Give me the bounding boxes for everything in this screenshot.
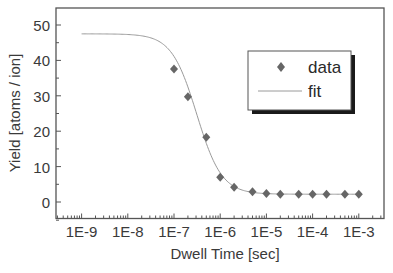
x-tick-label: 1E-9: [66, 223, 98, 240]
y-tick-label: 0: [42, 194, 50, 211]
y-tick-label: 40: [33, 52, 50, 69]
x-tick-label: 1E-5: [251, 223, 283, 240]
x-tick-label: 1E-7: [158, 223, 190, 240]
x-tick-label: 1E-6: [204, 223, 236, 240]
y-axis-title: Yield [atoms / ion]: [6, 54, 23, 173]
legend-label-fit: fit: [308, 82, 322, 101]
legend-label-data: data: [308, 58, 342, 77]
y-tick-label: 20: [33, 123, 50, 140]
y-tick-label: 50: [33, 17, 50, 34]
legend: data fit: [248, 51, 355, 114]
chart: 01020304050 1E-91E-81E-71E-61E-51E-41E-3…: [0, 0, 393, 273]
x-tick-label: 1E-8: [112, 223, 144, 240]
x-axis-title: Dwell Time [sec]: [170, 245, 279, 262]
y-tick-label: 10: [33, 159, 50, 176]
x-tick-label: 1E-4: [297, 223, 329, 240]
x-tick-label: 1E-3: [343, 223, 375, 240]
y-tick-label: 30: [33, 88, 50, 105]
